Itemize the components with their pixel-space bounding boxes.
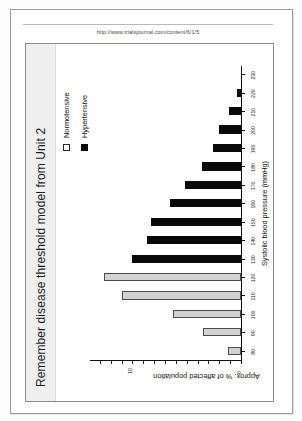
x-axis-tick-label: 130 bbox=[250, 255, 256, 264]
x-axis-tick-label: 190 bbox=[250, 145, 256, 154]
y-axis-tick bbox=[122, 361, 123, 364]
x-axis-tick-label: 150 bbox=[250, 218, 256, 227]
x-axis-tick-label: 210 bbox=[250, 108, 256, 117]
x-axis-tick-label: 220 bbox=[250, 89, 256, 98]
slide-title-band: Remember disease threshold model from Un… bbox=[26, 44, 56, 401]
slide-rotated-content: Remember disease threshold model from Un… bbox=[26, 44, 273, 401]
journal-url-header: http://www.trialsjournal.com/content/6/1… bbox=[23, 24, 273, 40]
y-axis-label: Approx. % of affected population bbox=[122, 372, 292, 381]
x-axis-tick-label: 100 bbox=[250, 311, 256, 320]
bar-hypertensive-160 bbox=[170, 199, 241, 207]
y-axis-tick bbox=[187, 361, 188, 364]
bar-hypertensive-130 bbox=[132, 255, 241, 263]
y-axis-tick bbox=[132, 361, 133, 364]
x-axis-tick-label: 160 bbox=[250, 200, 256, 209]
bar-hypertensive-190 bbox=[213, 144, 241, 152]
y-axis-tick bbox=[100, 361, 101, 364]
bar-chart: 8090100110120130140150160170180190200210… bbox=[56, 44, 273, 401]
journal-url-text: http://www.trialsjournal.com/content/6/1… bbox=[97, 29, 199, 35]
bar-hypertensive-210 bbox=[229, 107, 241, 115]
bar-normotensive-100 bbox=[173, 310, 241, 318]
x-axis-tick bbox=[242, 166, 245, 167]
x-axis-tick bbox=[242, 203, 245, 204]
x-axis-tick-label: 230 bbox=[250, 71, 256, 80]
x-axis-tick bbox=[242, 111, 245, 112]
legend-label-hypertensive: Hypertensive bbox=[80, 95, 89, 138]
x-axis-tick bbox=[242, 277, 245, 278]
scanned-page-background: http://www.trialsjournal.com/content/6/1… bbox=[0, 0, 302, 421]
y-axis-tick bbox=[176, 361, 177, 364]
slide-title: Remember disease threshold model from Un… bbox=[34, 128, 48, 387]
bar-hypertensive-220 bbox=[237, 89, 241, 97]
x-axis-tick-label: 180 bbox=[250, 163, 256, 172]
bar-hypertensive-200 bbox=[219, 125, 241, 133]
x-axis-tick bbox=[242, 314, 245, 315]
legend-swatch-normotensive bbox=[63, 144, 70, 151]
x-axis-tick bbox=[242, 185, 245, 186]
bar-normotensive-90 bbox=[203, 328, 241, 336]
bar-normotensive-80 bbox=[228, 347, 241, 355]
bar-hypertensive-180 bbox=[202, 162, 241, 170]
legend-label-normotensive: Normotensive bbox=[62, 92, 71, 138]
bar-normotensive-110 bbox=[122, 291, 241, 299]
x-axis-tick-label: 110 bbox=[250, 292, 256, 300]
x-axis-tick bbox=[242, 74, 245, 75]
x-axis-label: Systolic blood pressure (mmHg) bbox=[260, 66, 269, 361]
x-axis-tick bbox=[242, 295, 245, 296]
y-axis-tick bbox=[111, 361, 112, 364]
legend-item-normotensive: Normotensive bbox=[62, 92, 71, 151]
x-axis-tick-label: 200 bbox=[250, 126, 256, 135]
y-axis-tick bbox=[165, 361, 166, 364]
x-axis-tick-label: 80 bbox=[250, 349, 256, 355]
y-axis-tick bbox=[241, 361, 242, 364]
x-axis-tick bbox=[242, 93, 245, 94]
x-axis-tick-label: 140 bbox=[250, 237, 256, 246]
y-axis-tick bbox=[230, 361, 231, 364]
x-axis-tick bbox=[242, 130, 245, 131]
x-axis-tick bbox=[242, 240, 245, 241]
y-axis-tick bbox=[208, 361, 209, 364]
x-axis-tick-label: 170 bbox=[250, 182, 256, 191]
x-axis-tick-label: 90 bbox=[250, 330, 256, 336]
bar-hypertensive-140 bbox=[147, 236, 241, 244]
bar-normotensive-120 bbox=[104, 273, 241, 281]
y-axis-tick bbox=[219, 361, 220, 364]
x-axis-tick bbox=[242, 259, 245, 260]
y-axis-tick bbox=[143, 361, 144, 364]
bar-series-group bbox=[89, 66, 241, 360]
chart-legend: Normotensive Hypertensive bbox=[62, 92, 98, 151]
bar-hypertensive-170 bbox=[185, 181, 241, 189]
x-axis-tick bbox=[242, 222, 245, 223]
legend-item-hypertensive: Hypertensive bbox=[80, 92, 89, 151]
document-page: http://www.trialsjournal.com/content/6/1… bbox=[10, 9, 293, 414]
header-rule bbox=[23, 24, 273, 25]
y-axis-tick bbox=[198, 361, 199, 364]
x-axis-tick bbox=[242, 148, 245, 149]
y-axis-tick bbox=[154, 361, 155, 364]
bar-hypertensive-150 bbox=[151, 218, 241, 226]
x-axis-tick-label: 120 bbox=[250, 274, 256, 283]
presentation-slide: Remember disease threshold model from Un… bbox=[25, 43, 274, 402]
x-axis-tick bbox=[242, 332, 245, 333]
x-axis-tick bbox=[242, 351, 245, 352]
legend-swatch-hypertensive bbox=[81, 144, 88, 151]
